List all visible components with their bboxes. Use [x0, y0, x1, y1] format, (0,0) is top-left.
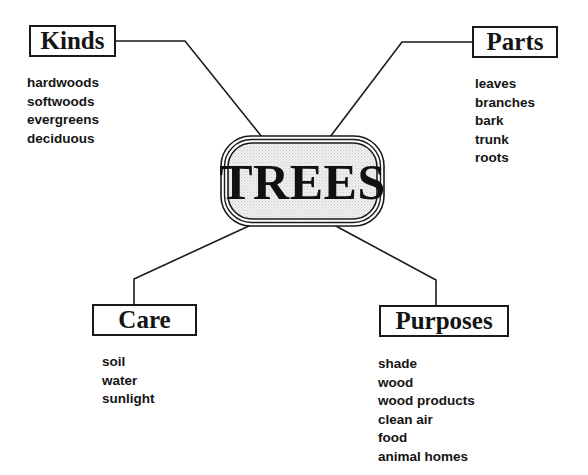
list-item: trunk [475, 131, 535, 150]
branch-label-parts: Parts [472, 26, 558, 58]
list-item: evergreens [27, 111, 99, 130]
connector-purposes [334, 225, 436, 305]
list-item: clean air [378, 411, 475, 430]
list-item: roots [475, 149, 535, 168]
list-item: deciduous [27, 130, 99, 149]
connector-parts [330, 42, 472, 137]
branch-label-kinds: Kinds [29, 25, 116, 57]
list-item: branches [475, 94, 535, 113]
center-title: TREES [220, 135, 385, 227]
connector-care [134, 225, 251, 304]
branch-label-care: Care [92, 304, 197, 336]
branch-items-purposes: shade wood wood products clean air food … [378, 355, 475, 467]
list-item: bark [475, 112, 535, 131]
branch-items-kinds: hardwoods softwoods evergreens deciduous [27, 74, 99, 148]
list-item: water [102, 372, 155, 391]
list-item: wood [378, 374, 475, 393]
connector-lines [0, 0, 588, 475]
list-item: soil [102, 353, 155, 372]
list-item: sunlight [102, 390, 155, 409]
list-item: animal homes [378, 448, 475, 467]
list-item: food [378, 429, 475, 448]
branch-label-purposes: Purposes [379, 305, 509, 337]
concept-map: TREES Kinds hardwoods softwoods evergree… [0, 0, 588, 475]
branch-items-parts: leaves branches bark trunk roots [475, 75, 535, 168]
list-item: hardwoods [27, 74, 99, 93]
center-node: TREES [220, 135, 385, 227]
connector-kinds [115, 41, 262, 137]
list-item: softwoods [27, 93, 99, 112]
list-item: shade [378, 355, 475, 374]
list-item: leaves [475, 75, 535, 94]
branch-items-care: soil water sunlight [102, 353, 155, 409]
list-item: wood products [378, 392, 475, 411]
